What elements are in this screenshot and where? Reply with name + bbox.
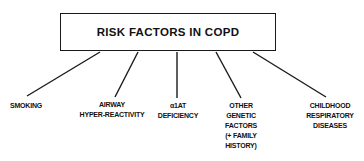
connector-genetic xyxy=(216,52,241,98)
factor-airway-hyperreactivity: AIRWAY HYPER-REACTIVITY xyxy=(72,100,152,120)
connector-airway xyxy=(115,52,138,97)
connector-smoking xyxy=(27,52,100,96)
factor-childhood-respiratory: CHILDHOOD RESPIRATORY DISEASES xyxy=(300,101,360,131)
connector-childhood xyxy=(253,52,326,97)
connector-lines xyxy=(0,0,364,161)
factor-other-genetic: OTHER GENETIC FACTORS (+ FAMILY HISTORY) xyxy=(216,101,266,151)
factor-a1at-deficiency: α1AT DEFICIENCY xyxy=(152,101,204,121)
factor-smoking: SMOKING xyxy=(0,101,52,111)
